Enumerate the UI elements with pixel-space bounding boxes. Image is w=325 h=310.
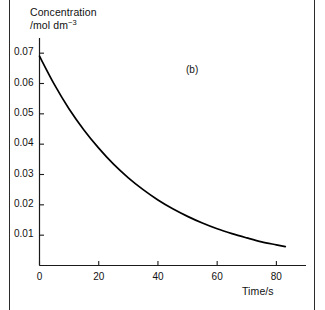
y-tick-marks — [40, 53, 45, 235]
y-tick-label: 0.06 — [0, 77, 34, 88]
concentration-decay-curve — [40, 56, 286, 246]
y-tick-label: 0.07 — [0, 46, 34, 57]
y-tick-label: 0.04 — [0, 137, 34, 148]
x-tick-label: 40 — [146, 271, 170, 282]
concentration-time-chart: Concentration /mol dm−3 (b) Time/s 0.010… — [0, 0, 325, 310]
figure-page: Concentration /mol dm−3 (b) Time/s 0.010… — [0, 0, 325, 310]
y-tick-label: 0.05 — [0, 107, 34, 118]
plot-canvas — [0, 0, 325, 310]
x-tick-label: 0 — [28, 271, 52, 282]
y-tick-label: 0.03 — [0, 168, 34, 179]
y-tick-label: 0.01 — [0, 228, 34, 239]
x-tick-label: 20 — [87, 271, 111, 282]
x-tick-label: 60 — [205, 271, 229, 282]
y-tick-label: 0.02 — [0, 198, 34, 209]
x-tick-label: 80 — [264, 271, 288, 282]
x-tick-marks — [40, 261, 277, 266]
axes-group — [40, 38, 307, 266]
